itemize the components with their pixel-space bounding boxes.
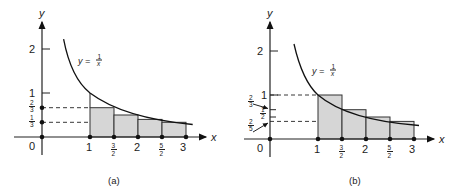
caption-a: (a)	[108, 175, 120, 186]
svg-text:3: 3	[340, 144, 344, 151]
svg-text:1: 1	[261, 106, 265, 113]
svg-text:3: 3	[409, 143, 415, 155]
svg-text:2: 2	[340, 152, 344, 159]
svg-text:1: 1	[30, 114, 34, 121]
origin-label-a: 0	[29, 140, 35, 152]
x-axis-label-a: x	[210, 131, 217, 143]
svg-text:1: 1	[98, 53, 102, 60]
svg-text:1: 1	[314, 143, 320, 155]
rect-a-1	[90, 108, 114, 137]
panel-b: y x 2 1 2 3 1 2 2 5 0 1 3 2 2 5 2 3 y = …	[244, 7, 445, 186]
panel-a: y x 2 1 2 3 1 3 0 1 3 2 2 5 2 3 y = 1 x …	[14, 7, 217, 186]
y-tick-1-a: 1	[29, 87, 35, 99]
rect-a-4	[162, 122, 186, 137]
rect-a-2	[114, 115, 138, 137]
svg-text:3: 3	[249, 101, 253, 108]
svg-text:1: 1	[332, 63, 336, 70]
riemann-sum-figure: y x 2 1 2 3 1 3 0 1 3 2 2 5 2 3 y = 1 x …	[0, 0, 468, 192]
svg-text:y: y	[266, 7, 274, 19]
svg-text:3: 3	[112, 142, 116, 149]
svg-text:2: 2	[134, 141, 140, 153]
svg-text:5: 5	[160, 142, 164, 149]
svg-text:2: 2	[160, 150, 164, 157]
svg-text:y =: y =	[77, 56, 90, 66]
svg-text:2: 2	[257, 45, 263, 57]
svg-text:x: x	[96, 60, 101, 67]
svg-text:5: 5	[249, 125, 253, 132]
svg-text:x: x	[330, 70, 335, 77]
rect-b-1	[318, 95, 342, 139]
caption-b: (b)	[349, 175, 361, 186]
svg-text:3: 3	[180, 141, 186, 153]
svg-text:3: 3	[30, 121, 34, 128]
curve-a	[64, 39, 193, 124]
svg-text:2: 2	[249, 118, 253, 125]
svg-text:2: 2	[30, 99, 34, 106]
svg-text:5: 5	[388, 144, 392, 151]
svg-text:2: 2	[388, 152, 392, 159]
svg-text:2: 2	[112, 150, 116, 157]
svg-text:2: 2	[249, 94, 253, 101]
y-tick-2-a: 2	[29, 43, 35, 55]
svg-text:2: 2	[362, 143, 368, 155]
svg-text:1: 1	[261, 89, 267, 101]
svg-text:0: 0	[257, 142, 263, 154]
svg-text:3: 3	[30, 106, 34, 113]
svg-text:1: 1	[86, 141, 92, 153]
svg-text:x: x	[438, 133, 445, 145]
rect-a-3	[138, 119, 162, 137]
y-axis-label-a: y	[38, 7, 46, 19]
pointer-two-fifths	[253, 123, 268, 132]
svg-text:y =: y =	[311, 66, 324, 76]
svg-text:2: 2	[261, 113, 265, 120]
